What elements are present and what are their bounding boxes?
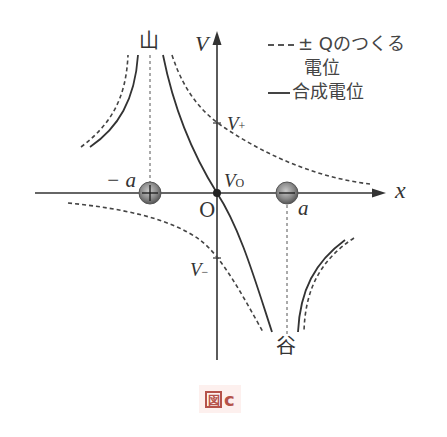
pos-a-label: a [298,198,309,219]
x-axis-label: x [395,178,406,202]
peak-label: 山 [139,31,159,51]
figure-caption-prefix: 図 [205,391,222,408]
legend-dashed-entry: ± Qのつくる [268,32,405,56]
origin-label: O [199,200,215,220]
x-axis [35,189,386,198]
neg-a-label: − a [106,170,136,191]
v-plus-label: V+ [227,114,245,133]
legend-solid-entry: 合成電位 [268,80,405,104]
y-axis-label: V [195,33,208,55]
charge-neg-a [139,182,161,204]
origin-point [213,189,221,197]
legend-dashed-entry-line2: 電位 [268,56,405,80]
dashed-line-swatch [268,44,294,46]
valley-label: 谷 [276,336,296,356]
v-zero-label: VO [224,171,244,190]
y-axis-arrow-icon [213,31,222,45]
x-axis-arrow-icon [372,189,386,198]
figure-caption: 図 c [199,385,241,413]
solid-line-swatch [268,92,290,94]
charge-pos-a [276,182,298,204]
legend: ± Qのつくる 電位 合成電位 [268,32,405,104]
v-minus-label: V− [190,260,208,279]
figure-caption-letter: c [224,389,235,410]
